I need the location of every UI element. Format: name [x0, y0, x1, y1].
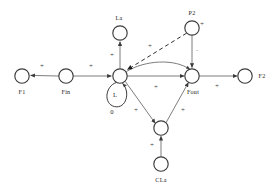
influence-diagram: F1 Fin Fout F2 La P2 CLa L 0 + + + + + -…	[0, 0, 278, 189]
node-center-l[interactable]	[113, 69, 127, 83]
node-f2[interactable]	[238, 69, 252, 83]
node-labels-layer: F1 Fin Fout F2 La P2 CLa L 0	[19, 9, 266, 183]
nodes-layer	[15, 21, 252, 171]
sign-center-fout: +	[154, 83, 158, 91]
label-cla: CLa	[155, 176, 166, 183]
node-cla[interactable]	[154, 157, 168, 171]
edge-clmid-fout	[166, 83, 188, 123]
sign-center-clmid: +	[134, 106, 138, 114]
label-f2: F2	[259, 72, 266, 79]
edge-fin-f1	[31, 75, 59, 76]
label-la: La	[116, 14, 123, 21]
node-f1[interactable]	[15, 69, 29, 83]
node-p2[interactable]	[185, 21, 199, 35]
sign-p2-corner: +	[200, 20, 204, 28]
label-f1: F1	[19, 88, 26, 95]
label-fout: Fout	[187, 88, 199, 95]
sign-fin-f1: +	[40, 62, 44, 70]
sign-center-la: +	[110, 51, 114, 59]
edge-center-clmid	[125, 82, 155, 124]
sign-center-fout-arc: -	[167, 58, 169, 65]
sign-fout-f2: +	[215, 82, 219, 90]
label-fin: Fin	[62, 88, 71, 95]
edges-layer	[31, 33, 237, 157]
node-fout[interactable]	[185, 69, 199, 83]
edge-center-fout-arc	[126, 62, 189, 72]
node-fin[interactable]	[59, 69, 73, 83]
sign-fin-center: +	[89, 62, 93, 70]
sign-p2-center: +	[148, 42, 152, 50]
self-loop-value: 0	[110, 108, 114, 115]
sign-cla-clmid: +	[150, 141, 154, 149]
diagram-canvas: F1 Fin Fout F2 La P2 CLa L 0 + + + + + -…	[0, 0, 278, 189]
self-loop-label: L	[113, 91, 117, 98]
node-la[interactable]	[113, 26, 127, 40]
node-clmid[interactable]	[154, 121, 168, 135]
sign-clmid-fout: +	[181, 106, 185, 114]
sign-p2-fout: -	[196, 46, 198, 53]
label-p2: P2	[189, 9, 196, 16]
